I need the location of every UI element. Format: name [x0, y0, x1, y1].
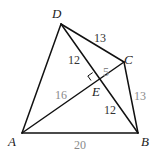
vertex-label-D: D — [51, 6, 62, 21]
length-label-CB: 13 — [134, 89, 146, 103]
right-angle-marker — [88, 73, 93, 81]
vertex-label-E: E — [91, 84, 100, 99]
length-label-DC: 13 — [94, 31, 106, 45]
segment-DA — [22, 24, 61, 133]
vertex-label-A: A — [7, 134, 16, 149]
length-label-DE: 12 — [68, 53, 80, 67]
vertex-label-B: B — [141, 134, 149, 149]
geometry-diagram: D C E A B 13 12 5 16 12 13 20 — [0, 0, 157, 157]
length-label-AE: 16 — [55, 88, 67, 102]
length-label-EC: 5 — [103, 65, 109, 79]
length-label-AB: 20 — [74, 138, 86, 152]
vertex-label-C: C — [124, 52, 133, 67]
length-label-EB: 12 — [104, 103, 116, 117]
